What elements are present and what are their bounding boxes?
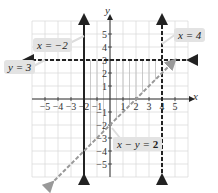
svg-text:−4: −4 <box>96 146 107 157</box>
svg-text:−3: −3 <box>66 101 77 112</box>
svg-text:1: 1 <box>102 81 107 92</box>
y-axis-label: y <box>104 4 110 16</box>
svg-text:−4: −4 <box>53 101 64 112</box>
svg-text:2: 2 <box>102 68 107 79</box>
label-x-minus-y-lhs: x − y = <box>117 138 153 150</box>
label-y-3: y = 3 <box>4 60 35 74</box>
svg-text:5: 5 <box>102 29 107 40</box>
svg-text:3: 3 <box>147 101 152 112</box>
label-x-minus-y: x − y = 2 <box>113 137 162 151</box>
svg-text:5: 5 <box>173 101 178 112</box>
label-x-neg2: x = −2 <box>33 38 72 52</box>
label-x-4: x = 4 <box>174 28 205 42</box>
line-x-minus-y <box>50 63 172 185</box>
x-axis-label: x <box>192 90 198 102</box>
svg-text:−5: −5 <box>96 159 107 170</box>
svg-text:2: 2 <box>134 101 139 112</box>
svg-text:4: 4 <box>102 42 107 53</box>
svg-text:−5: −5 <box>40 101 51 112</box>
label-x-minus-y-rhs: 2 <box>153 138 159 150</box>
svg-text:−1: −1 <box>96 107 107 118</box>
